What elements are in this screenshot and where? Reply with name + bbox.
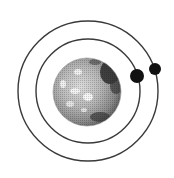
outer-moon [149,63,161,75]
orbit-diagram [0,0,174,178]
inner-moon [130,69,144,83]
planet-orbit-illustration [0,0,174,178]
